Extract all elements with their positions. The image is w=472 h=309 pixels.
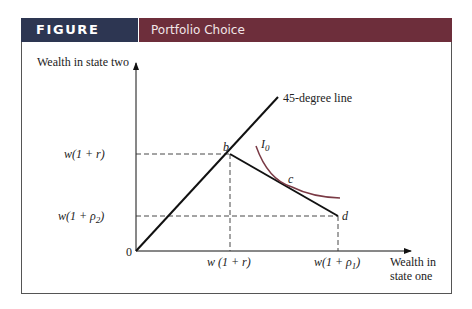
curve-I0-label: I0 xyxy=(260,137,270,153)
line-45-degree xyxy=(136,97,278,251)
y-tick-w1rho2: w(1 + ρ2) xyxy=(58,209,104,225)
budget-line xyxy=(230,154,338,216)
indifference-curve-I0 xyxy=(256,146,340,198)
point-b-label: b xyxy=(223,140,229,154)
point-c-label: c xyxy=(288,172,294,186)
portfolio-chart: Wealth in state two 0 w(1 + r) w(1 + ρ2)… xyxy=(0,0,472,309)
x-tick-w1r: w (1 + r) xyxy=(207,255,251,269)
x-tick-w1rho1: w(1 + ρ1) xyxy=(314,255,360,271)
y-axis-label: Wealth in state two xyxy=(37,55,129,69)
point-d-label: d xyxy=(342,209,349,223)
y-tick-w1r: w(1 + r) xyxy=(64,147,105,161)
x-axis-label-line1: Wealth in xyxy=(390,255,436,269)
line-45-label: 45-degree line xyxy=(283,91,352,105)
origin-label: 0 xyxy=(126,245,132,259)
x-axis-label-line2: state one xyxy=(390,269,432,283)
